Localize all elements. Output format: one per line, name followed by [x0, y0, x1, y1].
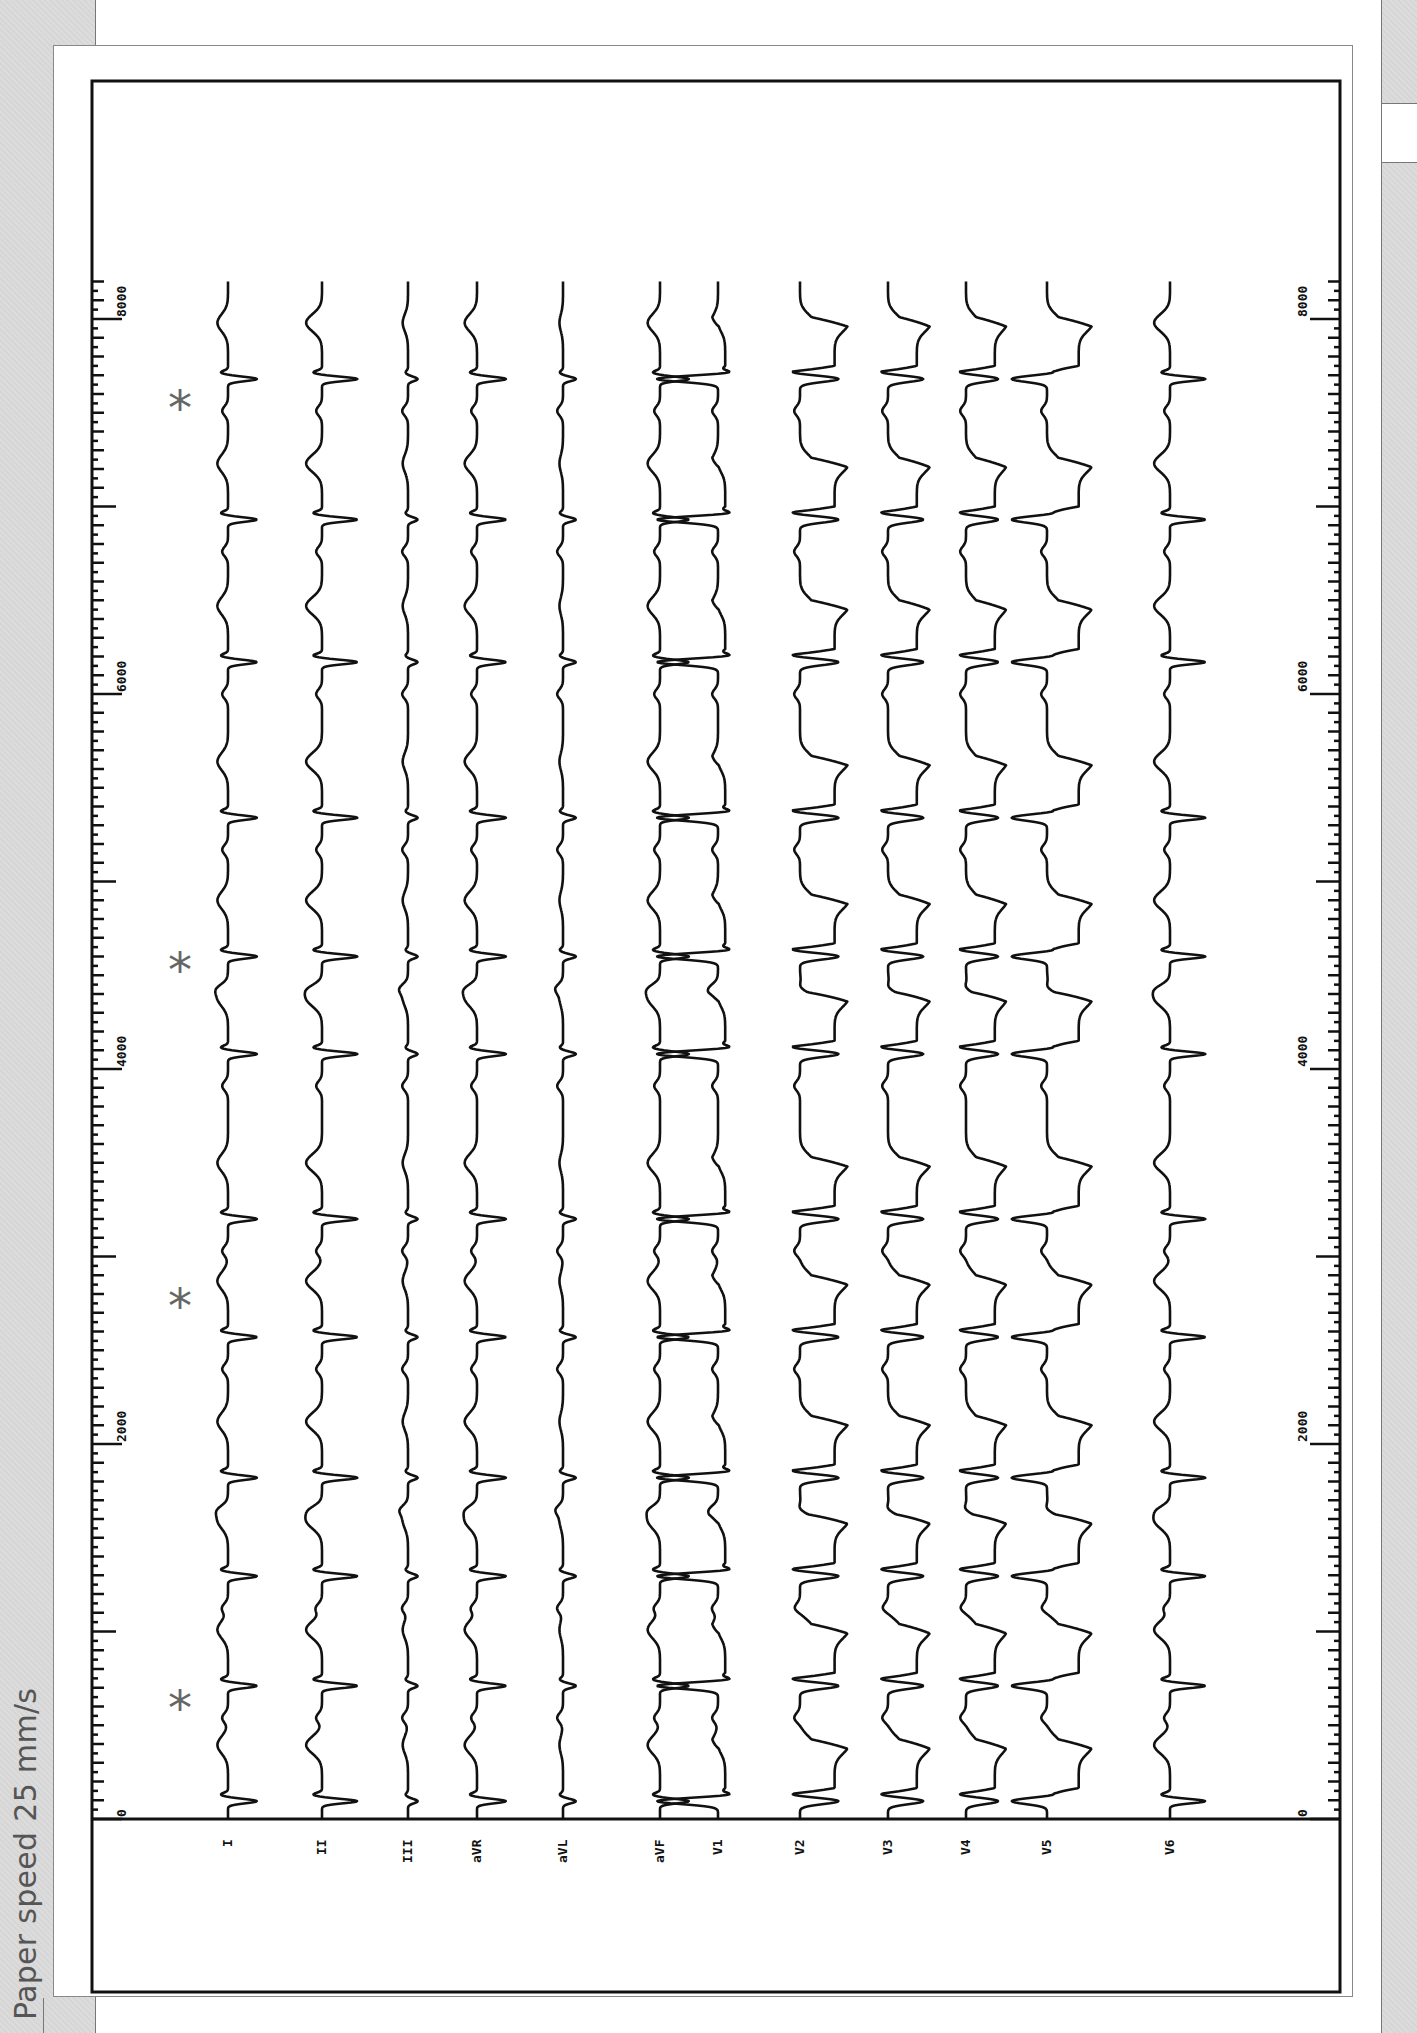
trace-iii	[399, 282, 418, 1820]
time-axis-ticks	[92, 282, 1340, 1820]
ecg-traces	[215, 282, 1205, 1820]
time-tick-label: 4000	[114, 1036, 129, 1067]
asterisk-marker-icon: *	[168, 1684, 192, 1732]
lead-label-v6: V6	[1162, 1839, 1177, 1855]
asterisk-marker-icon: *	[168, 1282, 192, 1330]
lead-label-v3: V3	[880, 1839, 895, 1855]
trace-v2	[793, 282, 848, 1820]
trace-v3	[881, 282, 929, 1820]
ecg-chart	[0, 0, 1417, 2033]
time-tick-label: 6000	[114, 661, 129, 692]
trace-ii	[305, 282, 357, 1820]
lead-label-avf: aVF	[652, 1840, 667, 1863]
time-tick-label: 2000	[1295, 1411, 1310, 1442]
trace-avr	[463, 282, 506, 1820]
chart-frame	[92, 81, 1340, 1992]
lead-label-i: I	[220, 1839, 235, 1847]
trace-v5	[1012, 282, 1092, 1820]
lead-label-v2: V2	[792, 1839, 807, 1855]
asterisk-marker-icon: *	[168, 384, 192, 432]
time-tick-label: 2000	[114, 1411, 129, 1442]
time-tick-label: 8000	[1295, 286, 1310, 317]
trace-i	[215, 282, 256, 1820]
time-tick-label: 8000	[114, 286, 129, 317]
lead-label-v4: V4	[958, 1839, 973, 1855]
lead-label-v5: V5	[1039, 1839, 1054, 1855]
lead-label-ii: II	[314, 1839, 329, 1855]
trace-v6	[1153, 282, 1205, 1820]
asterisk-marker-icon: *	[168, 946, 192, 994]
time-tick-label: 0	[114, 1809, 129, 1817]
time-tick-label: 4000	[1295, 1036, 1310, 1067]
time-tick-label: 0	[1295, 1809, 1310, 1817]
lead-label-avl: aVL	[555, 1840, 570, 1863]
time-tick-label: 6000	[1295, 661, 1310, 692]
lead-label-v1: V1	[710, 1839, 725, 1855]
trace-v4	[960, 282, 1006, 1820]
lead-label-iii: III	[400, 1840, 415, 1863]
trace-avl	[555, 282, 576, 1820]
lead-label-avr: aVR	[469, 1840, 484, 1863]
